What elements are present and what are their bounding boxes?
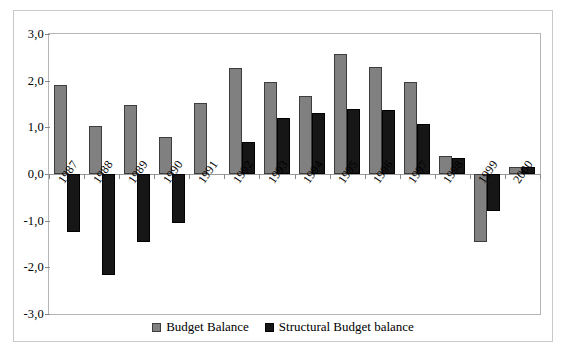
legend-swatch-structural-budget-balance	[265, 323, 274, 332]
x-axis-tick-mark	[154, 174, 155, 179]
plot-area: 3,02,01,00,0-1,0-2,0-3,01987198819891990…	[49, 34, 540, 314]
x-axis-tick-mark	[470, 174, 471, 179]
x-axis-tick-mark	[84, 174, 85, 179]
bar-structural-budget-balance	[102, 174, 115, 275]
y-axis-tick-mark	[45, 221, 50, 222]
bar-budget-balance	[229, 68, 242, 174]
y-axis-tick-label: 2,0	[28, 73, 44, 88]
y-axis-tick-label: 1,0	[28, 120, 44, 135]
x-axis-tick-mark	[365, 174, 366, 179]
x-axis-tick-mark	[259, 174, 260, 179]
bar-budget-balance	[369, 67, 382, 174]
y-axis-tick-label: -2,0	[23, 260, 44, 275]
bar-budget-balance	[264, 82, 277, 174]
bar-budget-balance	[334, 54, 347, 174]
x-axis-tick-mark	[189, 174, 190, 179]
plot-frame: 3,02,01,00,0-1,0-2,0-3,01987198819891990…	[48, 33, 541, 315]
y-axis-tick-mark	[45, 127, 50, 128]
legend-label: Structural Budget balance	[279, 319, 414, 335]
x-axis-tick-mark	[224, 174, 225, 179]
x-axis-tick-mark	[540, 174, 541, 179]
x-axis-tick-mark	[119, 174, 120, 179]
chart-legend: Budget BalanceStructural Budget balance	[14, 319, 552, 335]
bar-budget-balance	[404, 82, 417, 174]
legend-label: Budget Balance	[166, 319, 249, 335]
y-axis-tick-label: 0,0	[28, 167, 44, 182]
y-axis-tick-mark	[45, 314, 50, 315]
x-axis-tick-mark	[295, 174, 296, 179]
chart-figure: 3,02,01,00,0-1,0-2,0-3,01987198819891990…	[13, 10, 553, 342]
x-axis-tick-mark	[400, 174, 401, 179]
y-axis-tick-mark	[45, 81, 50, 82]
legend-swatch-budget-balance	[152, 323, 161, 332]
y-axis-tick-label: 3,0	[28, 27, 44, 42]
y-axis-tick-mark	[45, 267, 50, 268]
y-axis-tick-label: -1,0	[23, 213, 44, 228]
x-axis-tick-mark	[505, 174, 506, 179]
legend-entry: Budget Balance	[152, 319, 249, 335]
y-axis-tick-mark	[45, 34, 50, 35]
x-axis-tick-mark	[330, 174, 331, 179]
legend-entry: Structural Budget balance	[265, 319, 414, 335]
bar-budget-balance	[54, 85, 67, 174]
x-axis-tick-mark	[49, 174, 50, 179]
x-axis-tick-mark	[435, 174, 436, 179]
